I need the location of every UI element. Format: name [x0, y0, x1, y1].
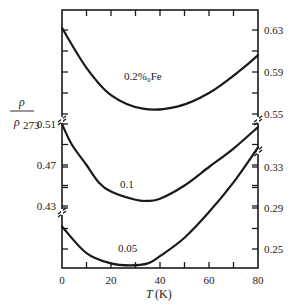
plot-border [62, 10, 258, 268]
y-tick-label-bottom: 0.33 [264, 161, 284, 173]
curve-0-2-fe [62, 28, 258, 110]
y-tick-label-middle: 0.51 [37, 118, 56, 130]
y-tick-label-middle: 0.47 [37, 159, 57, 171]
curve-label: 0.05 [118, 242, 138, 254]
x-tick-label: 20 [106, 274, 118, 286]
x-axis-title-unit: (K) [155, 287, 172, 301]
y-tick-label-bottom: 0.29 [264, 202, 284, 214]
labels: 0204060800.630.590.550.510.470.430.330.2… [37, 24, 284, 286]
chart: 0204060800.630.590.550.510.470.430.330.2… [0, 0, 295, 306]
x-tick-label: 0 [59, 274, 65, 286]
x-tick-label: 80 [253, 274, 265, 286]
curve-0-05 [62, 148, 258, 266]
ticks [62, 10, 258, 268]
y-axis-title-subscript: 273 [23, 119, 40, 131]
x-tick-label: 60 [204, 274, 216, 286]
curve-label: 0.1 [120, 178, 134, 190]
x-tick-label: 40 [155, 274, 167, 286]
x-axis-title: T (K) [146, 287, 172, 301]
curve-label: 0.2%₀Fe [124, 70, 162, 82]
y-axis-title-denominator: ρ [13, 115, 20, 129]
y-tick-label-top: 0.63 [264, 24, 284, 36]
y-tick-label-middle: 0.43 [37, 200, 57, 212]
y-tick-label-bottom: 0.25 [264, 243, 284, 255]
y-tick-label-top: 0.55 [264, 108, 284, 120]
curves [62, 28, 258, 266]
y-axis-title-numerator: ρ [18, 95, 25, 109]
y-axis-title: ρ ρ 273 [10, 95, 40, 131]
y-tick-label-top: 0.59 [264, 66, 284, 78]
x-axis-title-variable: T [146, 287, 154, 301]
plot-frame [58, 10, 262, 268]
